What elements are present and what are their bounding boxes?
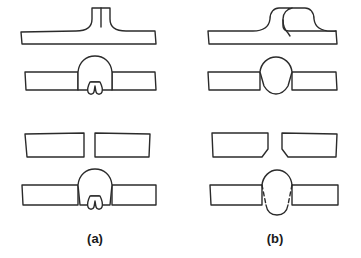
weld-joint-figure: (a) (b) <box>0 0 361 258</box>
plate-left-b-row3 <box>212 133 268 157</box>
plate-left-b-row4 <box>210 185 262 205</box>
plate-right-b-row2 <box>292 72 337 90</box>
plate-right-a-row4 <box>112 185 156 205</box>
plate-right-b-row3 <box>282 133 337 157</box>
caption-b: (b) <box>267 231 284 246</box>
plate-left-a-row3 <box>25 133 84 157</box>
plate-right-a-row2 <box>112 72 156 90</box>
caption-a: (a) <box>87 231 103 246</box>
plate-right-a-row3 <box>95 133 150 157</box>
plate-right-b-row4 <box>292 185 338 205</box>
weld-bead-b-row2 <box>260 57 292 94</box>
plate-left-a-row2 <box>25 72 78 90</box>
plate-left-a-row4 <box>22 185 78 205</box>
plate-left-b-row2 <box>208 72 260 90</box>
